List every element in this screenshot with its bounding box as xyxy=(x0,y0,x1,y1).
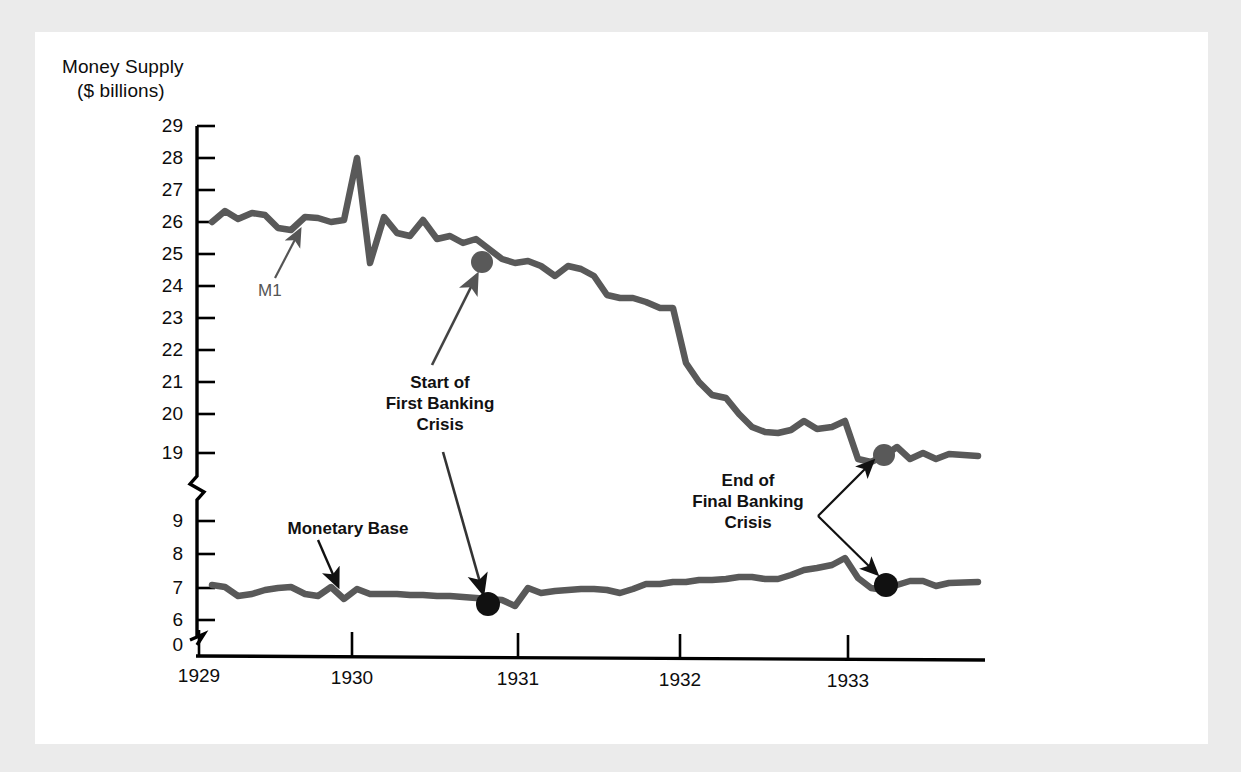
ytick-7: 7 xyxy=(143,577,183,599)
y-axis xyxy=(190,126,215,645)
ytick-9: 9 xyxy=(143,510,183,532)
xtick-1933: 1933 xyxy=(813,670,883,692)
ytick-25: 25 xyxy=(143,243,183,265)
xtick-1931: 1931 xyxy=(483,668,553,690)
ytick-23: 23 xyxy=(143,307,183,329)
ytick-8: 8 xyxy=(143,543,183,565)
ytick-19: 19 xyxy=(143,442,183,464)
marker-base-first-crisis xyxy=(476,592,500,616)
ytick-22: 22 xyxy=(143,339,183,361)
axis-title-line2: ($ billions) xyxy=(77,80,165,102)
marker-base-final-crisis xyxy=(874,573,898,597)
annotation-final-line3: Crisis xyxy=(618,512,878,533)
xtick-1929: 1929 xyxy=(164,665,234,687)
ytick-0: 0 xyxy=(143,634,183,656)
ytick-28: 28 xyxy=(143,147,183,169)
ytick-6: 6 xyxy=(143,609,183,631)
series-m1 xyxy=(212,158,978,466)
leader-m1 xyxy=(275,230,300,278)
series-label-monetary-base: Monetary Base xyxy=(248,518,448,539)
marker-m1-final-crisis xyxy=(873,444,895,466)
annotation-final-line1: End of xyxy=(618,470,878,491)
ytick-29: 29 xyxy=(143,115,183,137)
ytick-27: 27 xyxy=(143,179,183,201)
chart-figure xyxy=(0,0,1241,772)
x-axis xyxy=(196,630,985,660)
leader-first-crisis-base xyxy=(443,452,483,593)
xtick-1932: 1932 xyxy=(645,669,715,691)
ytick-21: 21 xyxy=(143,371,183,393)
annotation-first-line2: First Banking xyxy=(330,393,550,414)
marker-m1-first-crisis xyxy=(471,251,493,273)
xtick-1930: 1930 xyxy=(317,667,387,689)
series-monetary-base xyxy=(212,558,978,616)
annotation-final-banking-crisis: End of Final Banking Crisis xyxy=(618,470,878,533)
leader-monetary-base xyxy=(318,540,338,586)
series-label-m1: M1 xyxy=(258,281,282,301)
annotation-first-banking-crisis: Start of First Banking Crisis xyxy=(330,372,550,435)
annotation-first-line3: Crisis xyxy=(330,414,550,435)
axis-title-line1: Money Supply xyxy=(62,56,184,78)
leader-first-crisis-m1 xyxy=(432,275,477,365)
ytick-20: 20 xyxy=(143,403,183,425)
annotation-first-line1: Start of xyxy=(330,372,550,393)
chart-page: Money Supply ($ billions) 29 28 27 26 25… xyxy=(0,0,1241,772)
annotation-final-line2: Final Banking xyxy=(618,491,878,512)
ytick-26: 26 xyxy=(143,211,183,233)
ytick-24: 24 xyxy=(143,275,183,297)
